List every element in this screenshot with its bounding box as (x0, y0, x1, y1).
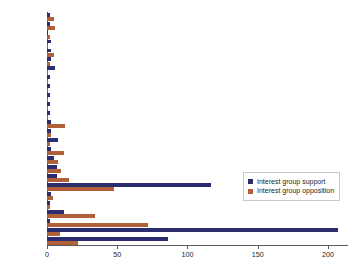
bar-group (47, 227, 349, 236)
x-tick-label: 200 (322, 250, 334, 259)
bar-group (47, 57, 349, 66)
chart-row: Burger (47, 93, 349, 102)
x-tick (187, 245, 188, 249)
bar-group (47, 12, 349, 21)
x-tick (47, 245, 48, 249)
bar-group (47, 21, 349, 30)
bar-group (47, 137, 349, 146)
chart-row: Stevens (47, 129, 349, 138)
bar-group (47, 200, 349, 209)
bar-group (47, 84, 349, 93)
x-tick-label: 150 (252, 250, 264, 259)
bar-group (47, 155, 349, 164)
chart-row: Roberts (47, 209, 349, 218)
chart-row: White (47, 57, 349, 66)
chart-legend: Interest group support Interest group op… (243, 172, 340, 201)
chart-row: O'Connor (47, 137, 349, 146)
bar-group (47, 209, 349, 218)
chart-row: Brennan (47, 30, 349, 39)
x-tick (328, 245, 329, 249)
x-tick (258, 245, 259, 249)
bar-group (47, 93, 349, 102)
x-axis-line (47, 245, 348, 246)
bar-group (47, 111, 349, 120)
legend-item-opposition: Interest group opposition (248, 187, 334, 195)
bar-group (47, 218, 349, 227)
x-tick-label: 50 (113, 250, 121, 259)
bar-group (47, 30, 349, 39)
bar-group (47, 146, 349, 155)
horizontal-bar-chart: WarrenHarlanBrennanWhitakerStewartWhiteG… (0, 0, 356, 271)
chart-row: Scalia (47, 155, 349, 164)
legend-label-opposition: Interest group opposition (257, 187, 334, 195)
chart-row: Stewart (47, 48, 349, 57)
x-tick (117, 245, 118, 249)
legend-label-support: Interest group support (257, 178, 326, 186)
bar-group (47, 39, 349, 48)
bar-group (47, 129, 349, 138)
legend-item-support: Interest group support (248, 178, 334, 186)
chart-row: Goldberg (47, 66, 349, 75)
chart-row: Blackmun (47, 102, 349, 111)
bar-group (47, 66, 349, 75)
chart-row: Fortas (47, 75, 349, 84)
bar-opposition (47, 241, 78, 245)
chart-row: Whitaker (47, 39, 349, 48)
chart-row: Marshall (47, 84, 349, 93)
legend-swatch-opposition-icon (248, 189, 253, 194)
chart-row: Rehnquist * (47, 120, 349, 129)
bar-group (47, 48, 349, 57)
chart-row: Warren (47, 12, 349, 21)
bar-group (47, 75, 349, 84)
bar-support (47, 228, 338, 232)
legend-swatch-support-icon (248, 179, 253, 184)
chart-row: Kagan (47, 236, 349, 245)
chart-row: Sotomayor (47, 227, 349, 236)
chart-row: Powell (47, 111, 349, 120)
chart-row: Breyer (47, 200, 349, 209)
x-tick-label: 0 (45, 250, 49, 259)
bar-group (47, 120, 349, 129)
x-tick-label: 100 (181, 250, 193, 259)
chart-row: Alito (47, 218, 349, 227)
bar-group (47, 102, 349, 111)
bar-group (47, 236, 349, 245)
chart-row: Harlan (47, 21, 349, 30)
chart-row: Rehnquist † (47, 146, 349, 155)
plot-area: WarrenHarlanBrennanWhitakerStewartWhiteG… (47, 12, 349, 245)
